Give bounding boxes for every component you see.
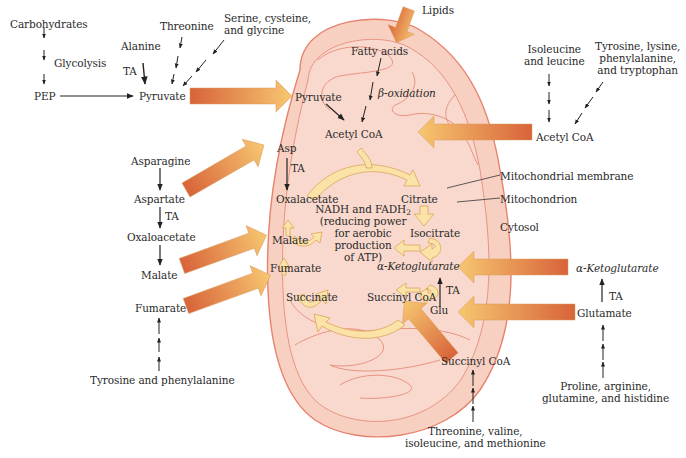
label-malate-cytosol: Malate: [141, 269, 177, 281]
label-acetyl-coa-mito: Acetyl CoA: [325, 128, 382, 140]
label-acetyl-coa-cytosol: Acetyl CoA: [536, 131, 593, 143]
label-succinyl-coa-cytosol: Succinyl CoA: [441, 355, 510, 367]
transport-arrow-pyruvate: [190, 80, 292, 112]
callout-mitochondrion: Mitochondrion: [500, 193, 577, 205]
label-threonine: Threonine: [160, 20, 214, 32]
label-ta-asp: TA: [291, 162, 305, 174]
label-malate-mito: Malate: [272, 234, 308, 246]
label-nadh-fadh2-main: NADH and FADH: [315, 203, 406, 215]
label-oxaloacetate: Oxaloacetate: [127, 231, 196, 243]
metabolic-diagram: Carbohydrates Glycolysis PEP Alanine TA …: [0, 0, 686, 458]
label-glu: Glu: [430, 304, 448, 316]
label-threonine-valine-isoleucine-methionine: Threonine, valine, isoleucine, and methi…: [405, 425, 546, 449]
label-alanine: Alanine: [121, 40, 161, 52]
label-tyrosine-lysine-phenylalanine-tryptophan: Tyrosine, lysine, phenylalanine, and try…: [595, 40, 680, 76]
label-tyrosine-phenylalanine: Tyrosine and phenylalanine: [90, 374, 235, 386]
callout-mitochondrial-membrane: Mitochondrial membrane: [500, 170, 633, 182]
label-ta-aspartate: TA: [165, 210, 179, 222]
label-succinate: Succinate: [286, 291, 338, 303]
label-glutamate: Glutamate: [577, 307, 632, 319]
label-fatty-acids: Fatty acids: [351, 45, 408, 57]
label-pyruvate-mito: Pyruvate: [295, 91, 342, 103]
label-ta-glu: TA: [446, 284, 460, 296]
label-fumarate-mito: Fumarate: [270, 262, 321, 274]
label-serine-cysteine-glycine: Serine, cysteine, and glycine: [224, 12, 311, 36]
label-asparagine: Asparagine: [131, 155, 190, 167]
label-lipids: Lipids: [422, 4, 454, 16]
label-beta-oxidation: β-oxidation: [378, 87, 436, 99]
label-alpha-ketoglutarate-cytosol: α-Ketoglutarate: [576, 262, 659, 274]
label-succinyl-coa-mito: Succinyl CoA: [367, 291, 436, 303]
label-pep: PEP: [34, 90, 56, 102]
label-ta-glutamate: TA: [609, 290, 623, 302]
label-asp-mito: Asp: [277, 142, 296, 154]
label-isoleucine-leucine: Isoleucine and leucine: [524, 43, 585, 67]
label-cytosol: Cytosol: [500, 221, 539, 233]
label-aspartate: Aspartate: [134, 193, 185, 205]
label-proline-arginine-glutamine-histidine: Proline, arginine, glutamine, and histid…: [542, 380, 669, 404]
label-reducing-power-note: (reducing power for aerobic production o…: [308, 215, 418, 263]
label-ta-alanine: TA: [123, 65, 137, 77]
label-carbohydrates: Carbohydrates: [10, 18, 88, 30]
label-glycolysis: Glycolysis: [54, 57, 106, 69]
transport-arrow-aspartate: [178, 131, 272, 204]
label-fumarate-cytosol: Fumarate: [135, 302, 186, 314]
label-pyruvate-cytosol: Pyruvate: [139, 90, 186, 102]
